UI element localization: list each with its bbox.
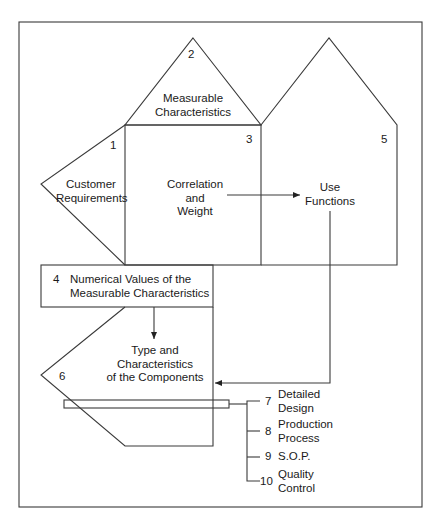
section-4-label-line: Measurable Characteristics [70, 287, 209, 301]
section-3-number: 3 [246, 133, 252, 145]
output-7-label-line: Detailed [278, 388, 320, 402]
output-7-number: 7 [265, 395, 271, 407]
output-10-label: Quality Control [278, 468, 315, 495]
component-bar [64, 400, 229, 408]
section-6-label: Type and Characteristics of the Componen… [100, 344, 210, 385]
section-5-label-line: Functions [290, 195, 370, 209]
output-7-label-line: Design [278, 402, 320, 416]
output-bracket [247, 401, 260, 481]
output-8-label: Production Process [278, 418, 333, 445]
output-9-label: S.O.P. [278, 450, 310, 464]
section-2-label-line: Characteristics [143, 106, 243, 120]
section-3-label: Correlation and Weight [145, 178, 245, 219]
section-5-number: 5 [381, 133, 387, 145]
arrow-functions-to-components [215, 211, 330, 383]
section-1-number: 1 [110, 139, 116, 151]
section-2-label-line: Measurable [143, 92, 243, 106]
output-7-label: Detailed Design [278, 388, 320, 415]
section-6-label-line: Type and [100, 344, 210, 358]
section-6-label-line: of the Components [100, 371, 210, 385]
section-3-label-line: and [145, 192, 245, 206]
output-9-number: 9 [265, 450, 271, 462]
section-5-label: Use Functions [290, 181, 370, 208]
section-2-label: Measurable Characteristics [143, 92, 243, 119]
section-3-label-line: Weight [145, 205, 245, 219]
output-10-label-line: Quality [278, 468, 315, 482]
section-1-label-line: Customer [56, 178, 126, 192]
section-3-label-line: Correlation [145, 178, 245, 192]
section-5-label-line: Use [290, 181, 370, 195]
section-5-house [261, 38, 397, 265]
output-10-label-line: Control [278, 482, 315, 496]
section-4-label-line: Numerical Values of the [70, 273, 209, 287]
section-6-number: 6 [59, 370, 65, 382]
output-8-label-line: Process [278, 432, 333, 446]
section-4-number: 4 [53, 273, 59, 285]
output-9-label-line: S.O.P. [278, 450, 310, 464]
output-10-number: 10 [260, 475, 273, 487]
section-1-label-line: Requirements [56, 192, 126, 206]
section-2-number: 2 [188, 48, 194, 60]
output-8-label-line: Production [278, 418, 333, 432]
section-6-label-line: Characteristics [100, 358, 210, 372]
section-1-label: Customer Requirements [56, 178, 126, 205]
diagram-canvas [0, 0, 439, 528]
section-4-label: Numerical Values of the Measurable Chara… [70, 273, 209, 300]
output-8-number: 8 [265, 425, 271, 437]
